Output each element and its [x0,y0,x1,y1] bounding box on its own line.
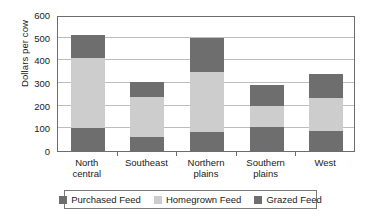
y-tick-label: 100 [4,124,50,134]
legend-item: Grazed Feed [254,194,321,205]
bar-segment-grazed-feed [190,38,224,72]
y-tick-label: 600 [4,11,50,21]
chart-legend: Purchased FeedHomegrown FeedGrazed Feed [64,190,317,209]
bar-segment-homegrown-feed [71,58,105,128]
bar-segment-homegrown-feed [250,106,284,128]
y-tick-label: 200 [4,102,50,112]
bar-segment-purchased-feed [71,128,105,151]
bar-segment-homegrown-feed [190,72,224,132]
y-tick-label: 0 [4,147,50,157]
bar-stack [250,15,284,151]
bar-segment-grazed-feed [130,82,164,97]
y-tick-label: 500 [4,34,50,44]
bar-segment-grazed-feed [250,85,284,105]
legend-swatch-icon [59,196,67,204]
x-category-label-line: West [287,157,363,168]
bar-stack [130,15,164,151]
bar-segment-purchased-feed [309,131,343,151]
legend-label: Homegrown Feed [166,194,242,205]
legend-item: Homegrown Feed [154,194,242,205]
x-axis-tick [176,152,177,156]
y-tick-label: 300 [4,79,50,89]
legend-label: Grazed Feed [266,194,321,205]
bar-segment-purchased-feed [250,127,284,151]
x-axis-tick [295,152,296,156]
bar-stack [190,15,224,151]
x-axis-tick [236,152,237,156]
bar-stack [71,15,105,151]
bar-stack [309,15,343,151]
legend-label: Purchased Feed [71,194,141,205]
legend-item: Purchased Feed [59,194,141,205]
bar-segment-homegrown-feed [130,97,164,138]
x-category-label: West [287,157,363,168]
bar-segment-grazed-feed [71,35,105,58]
legend-swatch-icon [254,196,262,204]
bar-segment-purchased-feed [190,132,224,151]
bar-segment-purchased-feed [130,137,164,151]
stacked-bar-chart: Dollars per cow 0100200300400500600 Nort… [0,0,381,222]
bar-segment-homegrown-feed [309,98,343,131]
x-axis-tick [117,152,118,156]
y-tick-label: 400 [4,56,50,66]
x-category-label-line: central [49,168,125,179]
bar-segment-grazed-feed [309,74,343,98]
x-category-label-line: plains [228,168,304,179]
legend-swatch-icon [154,196,162,204]
plot-area [57,16,355,152]
